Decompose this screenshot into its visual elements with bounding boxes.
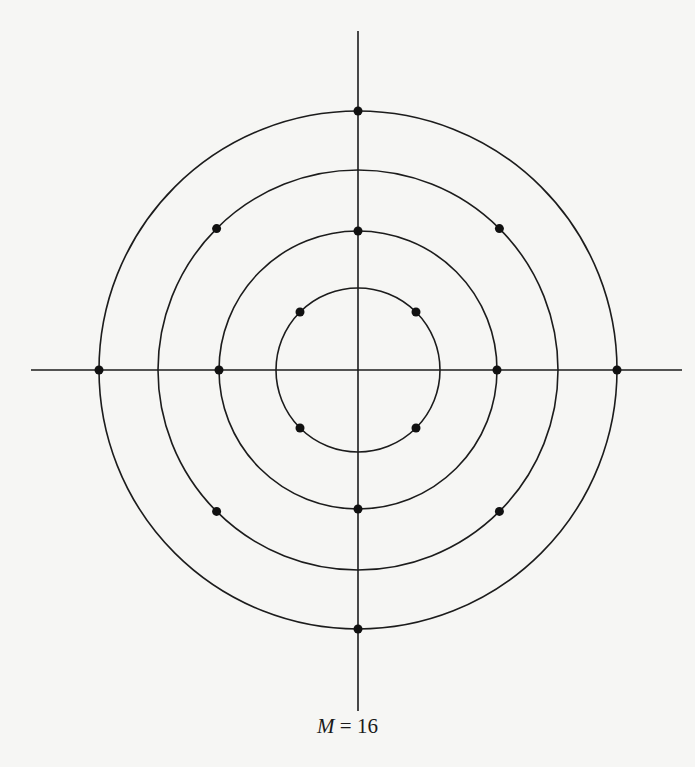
signal-point bbox=[354, 625, 363, 634]
signal-point bbox=[296, 308, 305, 317]
signal-point bbox=[354, 227, 363, 236]
signal-point bbox=[412, 308, 421, 317]
caption: M = 16 bbox=[0, 714, 695, 739]
constellation-diagram bbox=[0, 0, 695, 767]
axes bbox=[31, 31, 682, 711]
signal-point bbox=[296, 424, 305, 433]
caption-value: 16 bbox=[357, 714, 378, 738]
caption-equals: = bbox=[340, 714, 352, 738]
signal-point bbox=[495, 507, 504, 516]
signal-point bbox=[354, 107, 363, 116]
signal-point bbox=[212, 224, 221, 233]
caption-variable: M bbox=[317, 714, 335, 738]
signal-point bbox=[412, 424, 421, 433]
signal-point bbox=[354, 505, 363, 514]
signal-point bbox=[493, 366, 502, 375]
signal-point bbox=[95, 366, 104, 375]
signal-point bbox=[215, 366, 224, 375]
signal-point bbox=[212, 507, 221, 516]
signal-point bbox=[495, 224, 504, 233]
signal-point bbox=[613, 366, 622, 375]
